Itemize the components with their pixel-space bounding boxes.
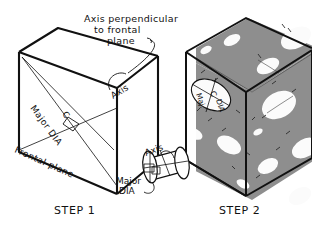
cylinder-major-dia-leader xyxy=(144,182,154,193)
step-1-caption: STEP 1 xyxy=(54,204,95,217)
step-2-caption: STEP 2 xyxy=(219,204,260,217)
technical-illustration: Maj. C DIA Major DIA C Frontal plane Axi… xyxy=(0,0,312,227)
callout-axis-line1: Axis perpendicular xyxy=(84,13,178,24)
callout-axis-line3: plane xyxy=(107,35,135,46)
callout-axis-line2: to frontal xyxy=(94,24,141,35)
figure-canvas: Maj. C DIA Major DIA C Frontal plane Axi… xyxy=(0,0,312,227)
cylinder-major-label-line2: DIA xyxy=(119,186,136,196)
cylinder-major-label-line1: Major xyxy=(116,176,141,186)
